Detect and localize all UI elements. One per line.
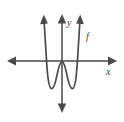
- graph-figure: y x f: [0, 0, 124, 122]
- y-axis-label: y: [66, 17, 72, 28]
- coordinate-plane-svg: y x f: [0, 0, 124, 122]
- x-axis-label: x: [105, 66, 111, 77]
